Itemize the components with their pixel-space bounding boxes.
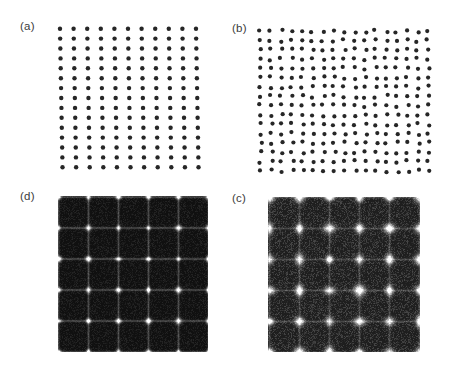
panel-c-fft — [268, 197, 420, 352]
panel-label-a: (a) — [20, 20, 35, 32]
panel-b-lattice — [254, 24, 434, 178]
panel-d-fft — [58, 196, 208, 352]
fft-canvas-d — [58, 196, 208, 352]
panel-label-b: (b) — [232, 22, 247, 34]
fft-canvas-c — [268, 197, 420, 352]
lattice-canvas-a — [54, 22, 202, 174]
panel-a-lattice — [54, 22, 202, 174]
panel-label-c: (c) — [232, 192, 246, 204]
lattice-canvas-b — [254, 24, 434, 178]
panel-label-d: (d) — [20, 190, 35, 202]
figure-root: (a) (b) (d) (c) — [0, 0, 453, 368]
